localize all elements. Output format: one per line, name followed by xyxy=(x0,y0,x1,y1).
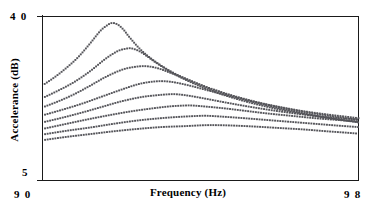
figure-accelerance-frequency: 4 0 5 9 0 9 8 Frequency (Hz) Accelerance… xyxy=(0,0,376,214)
y-axis-tick-min: 5 xyxy=(22,166,29,178)
data-curves xyxy=(44,22,360,141)
curve-1 xyxy=(44,22,359,123)
x-axis-label: Frequency (Hz) xyxy=(0,186,376,198)
axis-ticks xyxy=(37,17,359,182)
y-axis-tick-max: 4 0 xyxy=(10,10,27,22)
y-axis-label: Accelerance (dB) xyxy=(8,40,20,160)
plot-canvas xyxy=(0,0,376,214)
